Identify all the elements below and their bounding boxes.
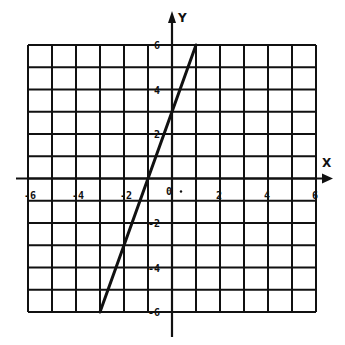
x-tick-label: 6: [312, 190, 318, 201]
y-tick-label: 4: [154, 85, 160, 96]
y-axis-arrow-icon: [168, 11, 176, 23]
x-axis-label: X: [322, 156, 332, 170]
x-tick-label: 4: [264, 190, 270, 201]
origin-dot: [180, 190, 182, 192]
y-tick-label: -4: [148, 263, 160, 274]
x-tick-label: 2: [216, 190, 222, 201]
coordinate-graph: YX -6-4-2246642-2-4-60: [0, 0, 345, 345]
x-tick-label: -6: [24, 190, 36, 201]
origin-label: 0: [166, 186, 172, 197]
x-tick-label: -4: [72, 190, 84, 201]
y-tick-label: 2: [154, 129, 160, 140]
x-tick-label: -2: [120, 190, 132, 201]
x-axis-arrow-icon: [322, 174, 333, 184]
y-tick-label: 6: [154, 40, 160, 51]
axes: YX: [16, 11, 333, 337]
y-axis-label: Y: [177, 11, 187, 25]
y-tick-label: -6: [148, 307, 160, 318]
y-tick-label: -2: [148, 218, 160, 229]
